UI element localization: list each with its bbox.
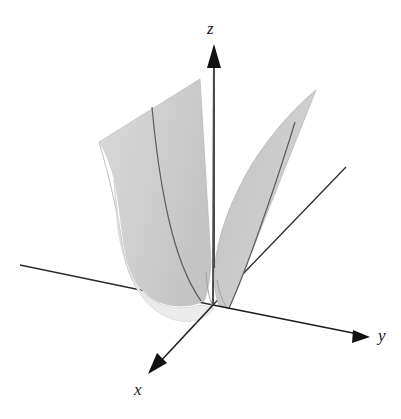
axis-y-arrowhead — [352, 330, 370, 343]
surface-plot-canvas — [0, 0, 401, 419]
axis-x-arrowhead — [148, 353, 167, 374]
axis-z-arrowhead — [207, 44, 221, 68]
axis-label-y: y — [378, 327, 386, 344]
axis-label-x: x — [134, 381, 142, 398]
figure-root: z y x — [0, 0, 401, 419]
axis-label-z: z — [207, 20, 214, 37]
axis-y — [213, 305, 370, 343]
surface-right-sheet — [214, 90, 316, 309]
